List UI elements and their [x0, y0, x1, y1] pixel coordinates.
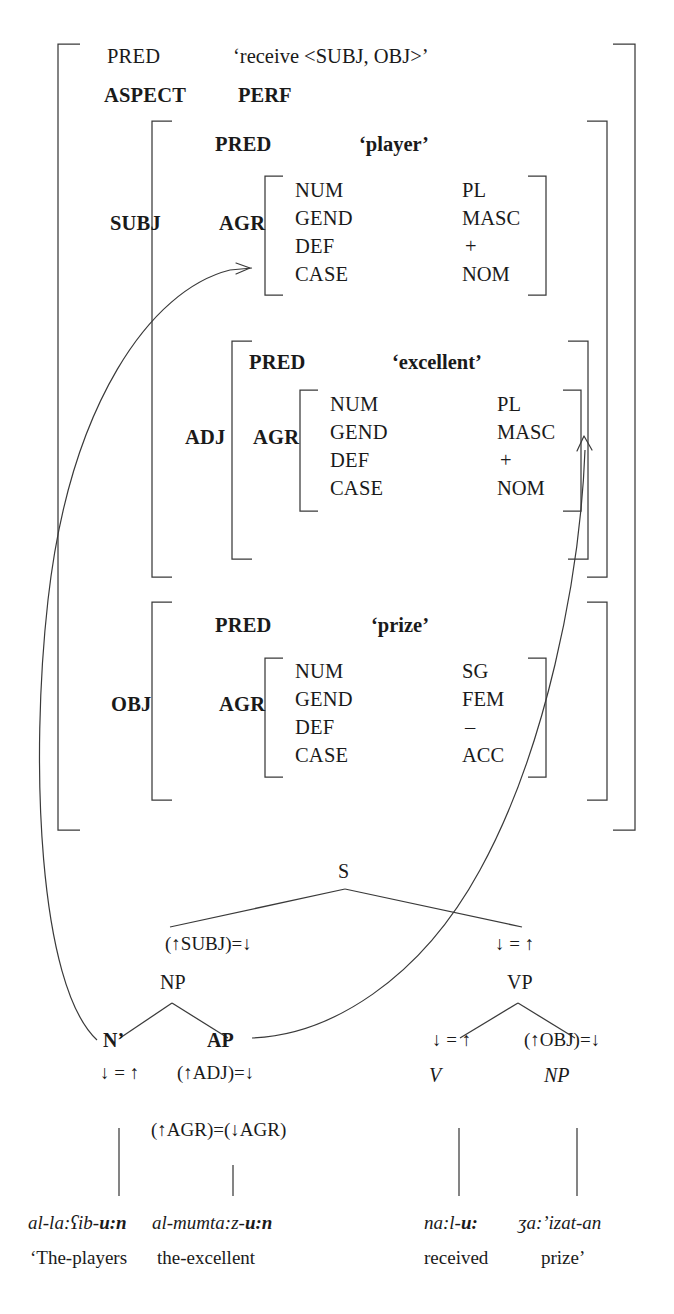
adj-agr-value-num: PL [497, 394, 521, 415]
subj-agr-feature-def: DEF [295, 236, 334, 257]
adj-agr-value-def: + [500, 450, 512, 471]
subj-agr-value-case: NOM [462, 264, 510, 285]
obj-agr-feature-case: CASE [295, 745, 348, 766]
terminal-gloss-2: the-excellent [157, 1248, 255, 1267]
tree-node-np-subj: NP [160, 972, 186, 992]
terminal-form-2-stem: al-mumta:z- [152, 1212, 245, 1233]
adj-agr-value-gend: MASC [497, 422, 555, 443]
fstruct-value-aspect: PERF [238, 85, 292, 106]
subj-bracket [152, 121, 607, 577]
obj-agr-feature-num: NUM [295, 661, 343, 682]
terminal-form-1-stem: al-la:ʕib- [28, 1212, 99, 1233]
adj-agr-feature-def: DEF [330, 450, 369, 471]
outer-bracket-left [58, 44, 80, 830]
obj-agr-value-num: SG [462, 661, 488, 682]
terminal-form-4-stem: ʒa:ʼizat-an [518, 1212, 601, 1233]
terminal-gloss-3: received [424, 1248, 488, 1267]
adj-agr-feature-gend: GEND [330, 422, 388, 443]
fstruct-attr-aspect: ASPECT [104, 85, 186, 106]
obj-agr-value-gend: FEM [462, 689, 504, 710]
equation-v-head: ↓ = ↑ [432, 1030, 471, 1049]
gf-label-obj: OBJ [111, 694, 151, 715]
terminal-form-2: al-mumta:z-u:n [152, 1213, 272, 1232]
tree-node-v: V [429, 1065, 441, 1085]
equation-obj: (↑OBJ)=↓ [524, 1030, 600, 1049]
terminal-form-3-suffix: u: [461, 1212, 478, 1233]
obj-attr-pred: PRED [215, 615, 272, 636]
subj-agr-feature-gend: GEND [295, 208, 353, 229]
equation-nbar-head: ↓ = ↑ [100, 1063, 139, 1082]
adj-agr-feature-num: NUM [330, 394, 378, 415]
adj-value-pred: ‘excellent’ [392, 352, 482, 373]
tree-node-np-obj: NP [544, 1065, 570, 1085]
terminal-form-4: ʒa:ʼizat-an [518, 1213, 601, 1232]
obj-attr-agr: AGR [219, 694, 265, 715]
terminal-gloss-1: ‘The-players [30, 1248, 127, 1267]
subj-attr-pred: PRED [215, 134, 272, 155]
equation-agr-share: (↑AGR)=(↓AGR) [151, 1120, 286, 1139]
terminal-form-3: na:l-u: [424, 1213, 478, 1232]
obj-agr-value-def: – [465, 717, 475, 738]
adj-bracket [232, 341, 588, 559]
fstruct-attr-pred: PRED [107, 46, 160, 67]
adj-attr-pred: PRED [249, 352, 306, 373]
obj-value-pred: ‘prize’ [371, 615, 429, 636]
subj-agr-value-num: PL [462, 180, 486, 201]
tree-node-vp: VP [507, 972, 533, 992]
subj-agr-value-def: + [465, 236, 477, 257]
terminal-form-3-stem: na:l- [424, 1212, 461, 1233]
subj-agr-feature-case: CASE [295, 264, 348, 285]
outer-bracket-right [613, 44, 635, 830]
obj-agr-feature-def: DEF [295, 717, 334, 738]
gf-label-adj: ADJ [185, 427, 225, 448]
terminal-gloss-4: prize’ [541, 1248, 585, 1267]
adj-attr-agr: AGR [253, 427, 299, 448]
terminal-form-2-suffix: u:n [245, 1212, 272, 1233]
subj-attr-agr: AGR [219, 213, 265, 234]
equation-adj: (↑ADJ)=↓ [177, 1063, 254, 1082]
tree-node-ap: AP [207, 1030, 234, 1050]
tree-node-s: S [338, 861, 349, 881]
terminal-form-1: al-la:ʕib-u:n [28, 1213, 127, 1232]
obj-agr-value-case: ACC [462, 745, 504, 766]
terminal-form-1-suffix: u:n [99, 1212, 126, 1233]
equation-vp-head: ↓ = ↑ [495, 934, 534, 953]
phi-arrow-subj [39, 263, 252, 1040]
subj-value-pred: ‘player’ [359, 134, 429, 155]
subj-agr-feature-num: NUM [295, 180, 343, 201]
tree-node-nbar: N’ [103, 1030, 124, 1050]
adj-agr-feature-case: CASE [330, 478, 383, 499]
fstruct-value-pred: ‘receive <SUBJ, OBJ>’ [233, 46, 429, 67]
adj-agr-value-case: NOM [497, 478, 545, 499]
figure-canvas: PRED ‘receive <SUBJ, OBJ>’ ASPECT PERF S… [0, 0, 674, 1314]
equation-subj: (↑SUBJ)=↓ [165, 934, 252, 953]
obj-agr-feature-gend: GEND [295, 689, 353, 710]
gf-label-subj: SUBJ [110, 213, 161, 234]
subj-agr-value-gend: MASC [462, 208, 520, 229]
